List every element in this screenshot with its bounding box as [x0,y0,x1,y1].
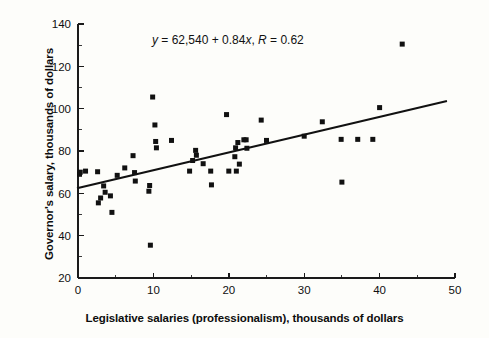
scatter-plot-figure: 2040608010012014001020304050 y = 62,540 … [0,0,489,338]
data-point [194,153,199,158]
data-point [224,112,229,117]
equation-part-1: = 62,540 + 0.84 [158,33,245,47]
data-point [232,154,237,159]
data-point [133,179,138,184]
data-point [190,158,195,163]
data-point [98,195,103,200]
data-point [78,170,83,175]
y-tick-label: 20 [58,272,71,284]
data-point [109,210,114,215]
data-point [108,193,113,198]
data-point [147,183,152,188]
data-point [132,170,137,175]
data-point [244,137,249,142]
data-point [95,169,100,174]
x-tick-label: 10 [147,284,160,296]
x-tick-label: 30 [298,284,311,296]
data-point [153,139,158,144]
data-point [209,182,214,187]
y-tick-label: 40 [58,230,71,242]
y-axis-title: Governor's salary, thousands of dollars [43,9,55,299]
data-point [237,162,242,167]
x-tick-label: 50 [449,284,462,296]
equation-part-3: = 0.62 [267,33,304,47]
data-point [244,146,249,151]
data-point [377,105,382,110]
minor-ticks [78,45,417,278]
data-point [122,165,127,170]
data-point [150,95,155,100]
data-point [152,122,157,127]
x-tick-label: 0 [75,284,81,296]
data-point [264,138,269,143]
data-point [201,161,206,166]
data-point [259,118,264,123]
data-point [339,137,344,142]
data-point [131,153,136,158]
data-point [83,169,88,174]
data-point [169,138,174,143]
data-point [115,173,120,178]
data-point [235,140,240,145]
data-point [400,42,405,47]
x-tick-label: 40 [373,284,386,296]
data-point [234,169,239,174]
data-point [355,137,360,142]
data-point [101,183,106,188]
data-point [96,200,101,205]
data-point [320,119,325,124]
data-point [302,134,307,139]
x-axis-title: Legislative salaries (professionalism), … [0,312,489,324]
tick-labels: 2040608010012014001020304050 [52,18,462,296]
data-point [226,169,231,174]
data-point [148,243,153,248]
data-point [187,169,192,174]
plot-canvas: 2040608010012014001020304050 [0,0,489,338]
data-point [193,148,198,153]
data-point [154,145,159,150]
y-tick-label: 60 [58,188,71,200]
equation-r-symbol: R [258,33,267,47]
data-point [370,137,375,142]
data-point [339,180,344,185]
data-point [208,169,213,174]
y-tick-label: 80 [58,145,71,157]
data-point [103,190,108,195]
data-point [146,189,151,194]
data-points [77,42,405,248]
x-tick-label: 20 [222,284,235,296]
major-ticks [78,24,455,278]
data-point [233,145,238,150]
regression-equation-annotation: y = 62,540 + 0.84x, R = 0.62 [152,33,304,47]
